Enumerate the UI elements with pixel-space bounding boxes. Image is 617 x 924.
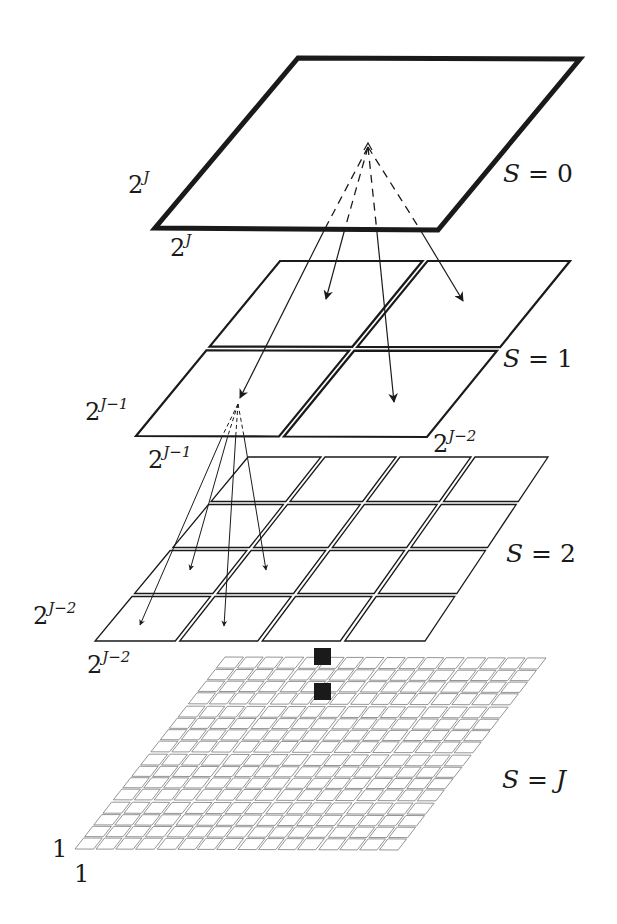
side-label-left-s0: 2J [128,168,150,199]
side-label-bottom-sj: 1 [74,860,89,888]
dashed-projection-line [222,404,238,436]
level-sj [75,657,546,850]
side-label-left-s1: 2J−1 [85,395,128,426]
child-pixel-marker [314,683,331,700]
side-label-bottom-s1: 2J−1 [148,443,191,474]
scale-label-s0: S = 0 [503,159,573,188]
arrow-groups [140,143,463,626]
block-outline [254,505,361,548]
block-outline [211,457,321,502]
grid-cell [254,505,361,548]
grid-cell [262,597,372,642]
grid-cell [378,551,485,594]
block-outline [357,261,570,347]
scale-label-s1: S = 1 [503,344,573,373]
scale-label-sj: S = J [502,765,568,794]
grid-cell [211,457,321,502]
block-outline [135,551,247,594]
block-outline [444,457,549,502]
block-outline [367,457,471,502]
dashed-projection-line [238,404,244,436]
block-outline [180,597,292,642]
dashed-projection-line [345,147,368,228]
block-outline [262,597,372,642]
dashed-projection-line [325,147,368,228]
block-outline [298,551,405,594]
arrow-group-s0 [240,143,463,402]
pyramid-diagram: S = 02J2JS = 12J−12J−12J−2S = 22J−22J−2S… [0,0,617,924]
block-outline [378,551,485,594]
side-label-bottom-s2: 2J−2 [87,648,130,679]
grid-cell [298,551,405,594]
dashed-projection-line [236,404,238,436]
grid-cell [444,457,549,502]
block-outline [345,597,455,642]
parent-pixel-marker [314,648,331,665]
dashed-projection-line [368,147,419,228]
block-size-label-s1: 2J−2 [433,427,476,458]
scale-label-s2: S = 2 [506,539,576,568]
block-outline [95,597,211,642]
block-outline [332,505,437,548]
block-outline [290,457,396,502]
grid-cell [345,597,455,642]
child-arrow [224,436,236,626]
grid-cell [210,261,423,347]
child-arrow [240,228,325,398]
level-s2 [95,457,548,641]
grid-cell [180,597,292,642]
grid-cell [332,505,437,548]
grid-cell [135,551,247,594]
side-label-left-sj: 1 [52,835,67,863]
grid-cell [95,597,211,642]
child-arrow [326,228,345,299]
side-label-bottom-s0: 2J [170,231,192,262]
block-outline [210,261,423,347]
block-outline [411,505,516,548]
grid-cell [367,457,471,502]
block-outline [217,551,326,594]
grid-cell [290,457,396,502]
grid-cell [357,261,570,347]
grid-cell [411,505,516,548]
side-label-left-s2: 2J−2 [33,599,76,630]
grid-cell [217,551,326,594]
